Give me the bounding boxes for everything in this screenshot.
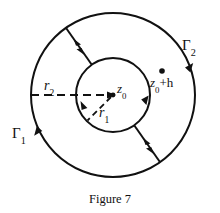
label-z0-plus-h: z0+h (150, 76, 173, 92)
offset-point-dot (159, 68, 165, 74)
label-gamma1-symbol: Γ (12, 125, 21, 141)
arrowhead-inner-left (81, 101, 88, 110)
arrowhead-cut-lower-outward (143, 138, 151, 145)
label-gamma2-subscript: 2 (191, 47, 196, 58)
label-gamma2: Γ2 (182, 38, 196, 56)
label-z0-subscript: 0 (122, 91, 126, 101)
label-z0h-subscript: 0 (155, 85, 159, 95)
label-r2: r2 (44, 79, 54, 96)
label-r2-subscript: 2 (49, 88, 54, 98)
label-r1: r1 (99, 106, 109, 123)
label-r1-subscript: 1 (104, 115, 109, 125)
center-point-dot (111, 93, 116, 98)
arrowhead-cut-upper-inward (74, 39, 82, 46)
figure-container: Γ2 Γ1 r2 r1 z0 z0+h Figure 7 (0, 0, 220, 213)
arrowhead-inner-right (141, 96, 148, 106)
contour-diagram (0, 0, 220, 213)
radial-cut-upper (66, 28, 92, 65)
label-z0: z0 (117, 82, 126, 98)
label-gamma1-subscript: 1 (21, 135, 26, 146)
label-gamma2-symbol: Γ (182, 37, 191, 53)
label-gamma1: Γ1 (12, 126, 26, 144)
figure-caption: Figure 7 (0, 192, 220, 207)
label-z0h-suffix: +h (159, 75, 173, 90)
